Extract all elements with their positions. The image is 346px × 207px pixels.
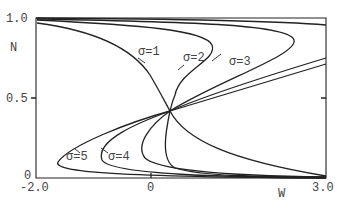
annotation-sigma-1: σ=1 xyxy=(138,46,160,58)
x-tick-mid: 0 xyxy=(147,182,154,194)
chart-plot xyxy=(0,0,346,207)
y-tick-05: 0.5 xyxy=(6,93,28,105)
annotation-sigma-3: σ=3 xyxy=(229,56,251,68)
tick-marks xyxy=(31,98,326,178)
label-leaders xyxy=(75,54,221,153)
x-tick-right: 3.0 xyxy=(312,182,334,194)
x-axis-label: W xyxy=(278,188,285,200)
annotation-sigma-2: σ=2 xyxy=(183,52,205,64)
y-axis-label: N xyxy=(10,42,17,54)
annotation-sigma-5: σ=5 xyxy=(66,151,88,163)
annotation-sigma-4: σ=4 xyxy=(108,151,130,163)
y-tick-1: 1.0 xyxy=(6,13,28,25)
x-tick-left: -2.0 xyxy=(20,182,49,194)
